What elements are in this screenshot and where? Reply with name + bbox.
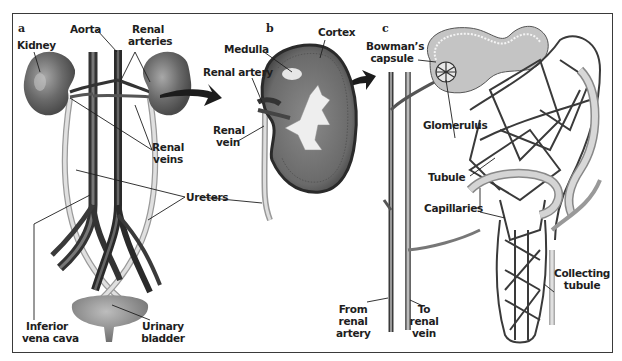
label-renal-artery: Renal artery <box>203 66 273 78</box>
panel-letter-a: a <box>18 22 25 35</box>
label-renal-veins: Renal veins <box>152 141 184 165</box>
panel-c-illustration <box>367 26 600 342</box>
label-renal-vein: Renal vein <box>213 124 243 148</box>
label-collecting-tubule: Collecting tubule <box>554 267 610 291</box>
label-aorta: Aorta <box>70 23 101 35</box>
label-tubule: Tubule <box>428 171 465 183</box>
label-inferior-vena-cava: Inferior vena cava <box>22 320 72 344</box>
label-capillaries: Capillaries <box>424 202 483 214</box>
label-from-renal-artery: From renal artery <box>336 303 370 339</box>
label-kidney: Kidney <box>17 39 56 51</box>
label-cortex: Cortex <box>318 26 355 38</box>
label-renal-arteries: Renal arteries <box>128 23 168 47</box>
label-medulla: Medulla <box>224 43 269 55</box>
label-urinary-bladder: Urinary bladder <box>140 320 186 344</box>
label-bowmans-capsule: Bowman’s capsule <box>366 40 418 64</box>
panel-letter-b: b <box>266 22 274 35</box>
kidney-anatomy-illustration <box>0 0 622 361</box>
label-to-renal-vein: To renal vein <box>407 303 441 339</box>
label-ureters: Ureters <box>186 191 228 203</box>
label-glomerulus: Glomerulus <box>423 119 487 131</box>
panel-letter-c: c <box>382 22 389 35</box>
